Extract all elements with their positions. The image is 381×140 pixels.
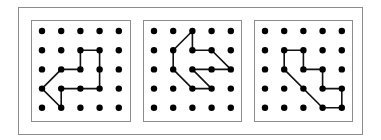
- grid-dot: [39, 28, 45, 34]
- geoboard-figure: [0, 0, 381, 140]
- polygon-path: [284, 50, 342, 108]
- grid-dot: [208, 85, 214, 91]
- grid-dot: [116, 28, 122, 34]
- grid-dot: [189, 105, 195, 111]
- grid-dot: [300, 47, 306, 53]
- grid-dot: [262, 105, 268, 111]
- grid-dot: [77, 85, 83, 91]
- grid-dot: [262, 28, 268, 34]
- grid-dot: [208, 66, 214, 72]
- grid-dot: [58, 47, 64, 53]
- grid-dot: [96, 105, 102, 111]
- grid-dot: [77, 47, 83, 53]
- grid-dot: [339, 47, 345, 53]
- grid-dot: [58, 105, 64, 111]
- grid-dot: [262, 66, 268, 72]
- grid-dot: [77, 66, 83, 72]
- polygon-path: [42, 50, 100, 108]
- grid-dot: [151, 85, 157, 91]
- grid-dot: [39, 47, 45, 53]
- grid-dot: [116, 105, 122, 111]
- grid-dot: [281, 47, 287, 53]
- grid-dot: [228, 105, 234, 111]
- grid-dot: [116, 85, 122, 91]
- grid-dot: [339, 28, 345, 34]
- panel-2: [144, 21, 242, 122]
- grid-dot: [58, 85, 64, 91]
- grid-dot: [96, 28, 102, 34]
- grid-dot: [281, 85, 287, 91]
- grid-dot: [39, 85, 45, 91]
- grid-dot: [300, 28, 306, 34]
- grid-dot: [170, 85, 176, 91]
- grid-dot: [170, 28, 176, 34]
- grid-dot: [339, 105, 345, 111]
- grid-dot: [281, 28, 287, 34]
- polygon-path: [173, 31, 231, 89]
- grid-dot: [39, 66, 45, 72]
- grid-dot: [151, 66, 157, 72]
- grid-dot: [319, 47, 325, 53]
- grid-dot: [116, 66, 122, 72]
- grid-dot: [319, 105, 325, 111]
- grid-dot: [170, 66, 176, 72]
- grid-dot: [208, 28, 214, 34]
- grid-dot: [262, 85, 268, 91]
- grid-dot: [58, 66, 64, 72]
- grid-dot: [77, 28, 83, 34]
- grid-dot: [319, 28, 325, 34]
- grid-dot: [189, 28, 195, 34]
- grid-dot: [151, 47, 157, 53]
- grid-dot: [208, 105, 214, 111]
- grid-dot: [300, 66, 306, 72]
- grid-dot: [281, 105, 287, 111]
- grid-dot: [77, 105, 83, 111]
- grid-dot: [300, 105, 306, 111]
- panel-3: [255, 21, 353, 122]
- grid-dot: [58, 28, 64, 34]
- grid-dot: [151, 28, 157, 34]
- grid-dot: [208, 47, 214, 53]
- grid-dot: [170, 47, 176, 53]
- grid-dot: [228, 66, 234, 72]
- grid-dot: [339, 85, 345, 91]
- grid-dot: [262, 47, 268, 53]
- panel-1: [32, 21, 131, 122]
- grid-dot: [39, 105, 45, 111]
- grid-dot: [189, 66, 195, 72]
- grid-dot: [228, 28, 234, 34]
- grid-dot: [228, 85, 234, 91]
- grid-dot: [339, 66, 345, 72]
- grid-dot: [116, 47, 122, 53]
- grid-dot: [170, 105, 176, 111]
- grid-dot: [96, 66, 102, 72]
- grid-dot: [319, 66, 325, 72]
- grid-dot: [96, 47, 102, 53]
- grid-dot: [189, 85, 195, 91]
- grid-dot: [319, 85, 325, 91]
- grid-dot: [96, 85, 102, 91]
- grid-dot: [300, 85, 306, 91]
- grid-dot: [151, 105, 157, 111]
- grid-dot: [281, 66, 287, 72]
- grid-dot: [228, 47, 234, 53]
- grid-dot: [189, 47, 195, 53]
